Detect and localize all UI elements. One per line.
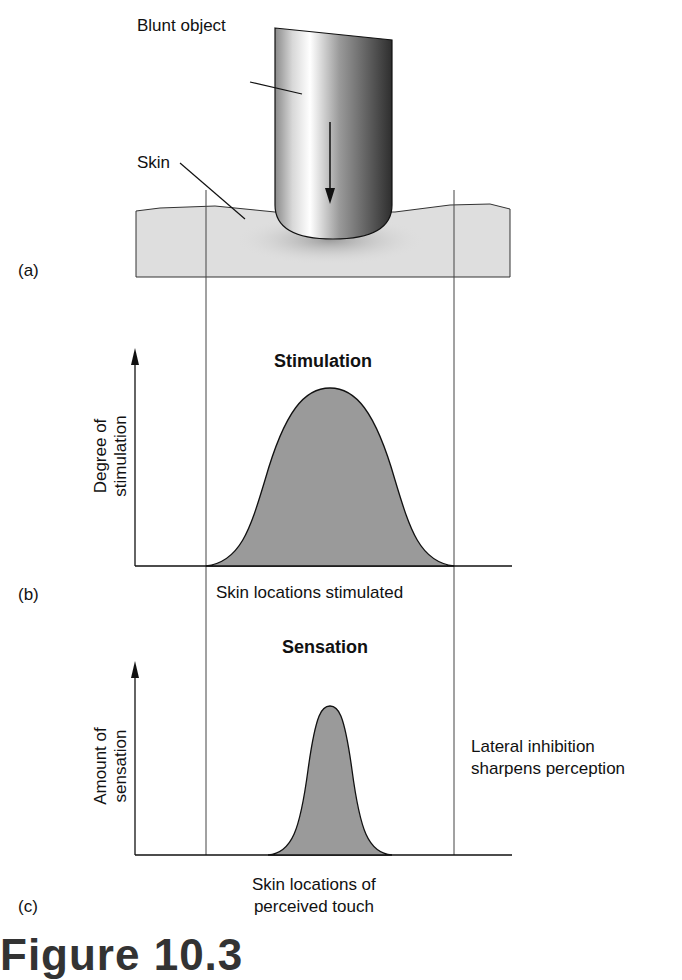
- figure-caption: Figure 10.3: [0, 930, 243, 980]
- sensation-title: Sensation: [282, 637, 368, 658]
- sensation-x-label: Skin locations of perceived touch: [252, 874, 376, 918]
- blunt-object-label: Blunt object: [137, 16, 226, 36]
- stimulation-curve: [206, 388, 454, 566]
- lateral-inhibition-note: Lateral inhibition sharpens perception: [471, 736, 625, 780]
- stimulation-x-label: Skin locations stimulated: [216, 583, 403, 603]
- blunt-object: [275, 28, 392, 239]
- skin-label: Skin: [137, 153, 170, 173]
- panel-c-letter: (c): [18, 897, 38, 917]
- panel-b-letter: (b): [18, 585, 39, 605]
- sensation-y-label: Amount of sensation: [91, 711, 131, 821]
- panel-a-letter: (a): [18, 261, 39, 281]
- stimulation-title: Stimulation: [274, 351, 372, 372]
- stimulation-y-label: Degree of stimulation: [91, 401, 131, 511]
- sensation-curve: [268, 706, 392, 855]
